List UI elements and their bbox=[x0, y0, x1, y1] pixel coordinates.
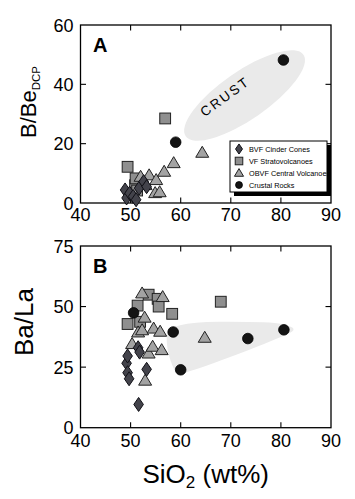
data-point-diamond bbox=[134, 397, 144, 411]
legend-item-label: Crustal Rocks bbox=[249, 181, 295, 190]
data-point-circle bbox=[168, 327, 179, 338]
crust-region bbox=[172, 35, 317, 156]
panel-label-a: A bbox=[93, 34, 107, 56]
y-axis-label-b: Ba/La bbox=[9, 287, 39, 355]
data-point-square bbox=[215, 296, 226, 307]
x-tick-label: 80 bbox=[271, 431, 291, 451]
data-point-triangle bbox=[146, 340, 159, 351]
legend-square-icon bbox=[235, 157, 243, 165]
y-axis-label-a: B/BeDCP bbox=[16, 66, 42, 138]
x-tick-label: 50 bbox=[121, 205, 141, 225]
y-tick-label: 20 bbox=[53, 134, 73, 154]
scatter-plots-svg: 4050607080900204060CRUSTAB/BeDCP40506070… bbox=[0, 0, 355, 499]
y-tick-label: 0 bbox=[63, 418, 73, 438]
geochemistry-figure: 4050607080900204060CRUSTAB/BeDCP40506070… bbox=[0, 0, 355, 499]
crust-region-b bbox=[167, 322, 294, 374]
legend-item-label: VF Stratovolcanoes bbox=[249, 157, 313, 166]
y-tick-label: 60 bbox=[53, 16, 73, 36]
data-point-circle bbox=[175, 364, 186, 375]
data-point-square bbox=[122, 161, 133, 172]
y-tick-label: 40 bbox=[53, 75, 73, 95]
data-point-circle bbox=[128, 308, 139, 319]
legend-item-label: OBVF Central Volcanoes bbox=[249, 169, 330, 178]
x-tick-label: 50 bbox=[121, 431, 141, 451]
y-tick-label: 50 bbox=[53, 297, 73, 317]
x-tick-label: 90 bbox=[321, 205, 341, 225]
x-tick-label: 60 bbox=[171, 205, 191, 225]
x-tick-label: 70 bbox=[221, 205, 241, 225]
x-tick-label: 80 bbox=[271, 205, 291, 225]
x-axis-title: SiO2 (wt%) bbox=[143, 459, 269, 492]
x-tick-label: 70 bbox=[221, 431, 241, 451]
data-point-circle bbox=[278, 55, 289, 66]
data-point-triangle bbox=[167, 157, 180, 168]
data-point-diamond bbox=[142, 362, 152, 376]
legend-item-label: BVF Cinder Cones bbox=[249, 145, 310, 154]
data-point-triangle bbox=[139, 374, 152, 385]
y-tick-label: 0 bbox=[63, 194, 73, 214]
data-point-circle bbox=[243, 333, 254, 344]
x-tick-label: 90 bbox=[321, 431, 341, 451]
data-point-square bbox=[160, 113, 171, 124]
x-tick-label: 60 bbox=[171, 431, 191, 451]
panel-b: 4050607080900255075BBa/La bbox=[9, 237, 341, 452]
data-point-circle bbox=[170, 137, 181, 148]
y-tick-label: 75 bbox=[53, 237, 73, 257]
data-point-square bbox=[153, 301, 164, 312]
y-tick-label: 25 bbox=[53, 358, 73, 378]
data-point-square bbox=[122, 319, 133, 330]
legend-circle-icon bbox=[236, 182, 243, 189]
panel-label-b: B bbox=[93, 255, 107, 277]
legend: BVF Cinder ConesVF StratovolcanoesOBVF C… bbox=[230, 141, 331, 196]
data-point-triangle bbox=[196, 146, 209, 157]
data-point-square bbox=[167, 308, 178, 319]
data-point-circle bbox=[279, 325, 290, 336]
